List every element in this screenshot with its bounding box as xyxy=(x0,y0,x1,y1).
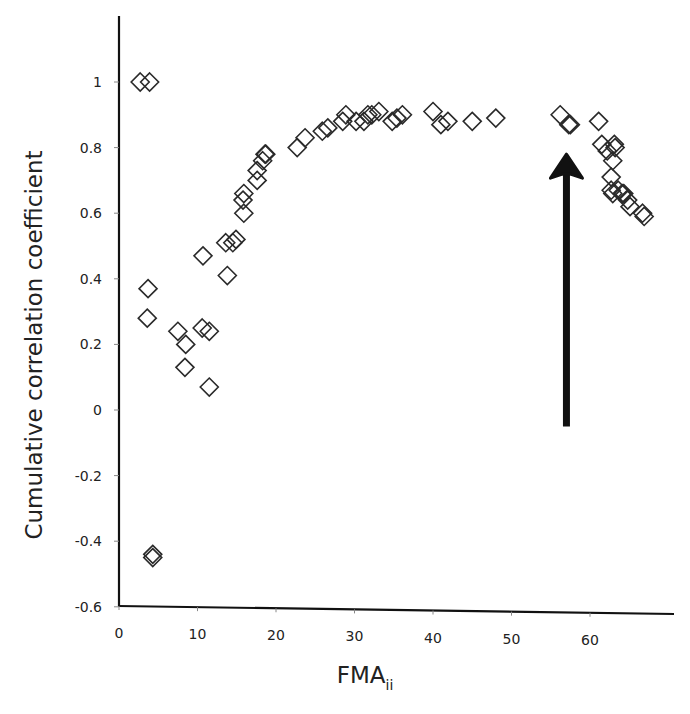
data-point-diamond xyxy=(139,280,157,298)
x-tick-label: 40 xyxy=(424,630,442,646)
x-axis-title-main: FMA xyxy=(337,662,386,688)
x-tick-label: 50 xyxy=(503,631,521,647)
y-tick-labels: -0.6-0.4-0.200.20.40.60.81 xyxy=(75,74,119,615)
y-tick-label: 0.6 xyxy=(80,205,102,221)
x-tick-label: 60 xyxy=(581,632,599,648)
y-tick-label: 0.4 xyxy=(80,271,102,287)
y-tick-label: -0.2 xyxy=(75,468,102,484)
data-point-diamond xyxy=(235,185,253,203)
data-point-diamond xyxy=(235,204,253,222)
x-axis-line xyxy=(118,606,674,614)
data-point-diamond xyxy=(217,234,235,252)
y-axis-title: Cumulative correlation coefficient xyxy=(21,150,47,539)
data-point-diamond xyxy=(590,112,608,130)
y-tick-label: -0.6 xyxy=(75,599,102,615)
x-axis-title: FMAii xyxy=(337,662,394,693)
y-tick-label: 0.2 xyxy=(80,336,102,352)
data-point-diamond xyxy=(234,191,252,209)
y-tick-label: 0 xyxy=(93,402,102,418)
x-axis-title-subscript: ii xyxy=(386,677,394,693)
data-point-diamond xyxy=(176,358,194,376)
data-point-diamond xyxy=(218,267,236,285)
data-point-diamond xyxy=(463,112,481,130)
data-points xyxy=(131,73,653,567)
data-point-diamond xyxy=(487,109,505,127)
y-tick-label: 0.8 xyxy=(80,140,102,156)
data-point-diamond xyxy=(288,139,306,157)
scatter-chart: -0.6-0.4-0.200.20.40.60.81 0102030405060… xyxy=(0,0,690,714)
axes xyxy=(118,16,674,614)
data-point-diamond xyxy=(194,247,212,265)
data-point-diamond xyxy=(551,106,569,124)
y-tick-label: 1 xyxy=(93,74,102,90)
annotations xyxy=(550,154,582,426)
data-point-diamond xyxy=(602,168,620,186)
arrow-up-icon xyxy=(550,154,582,178)
data-point-diamond xyxy=(200,378,218,396)
y-tick-label: -0.4 xyxy=(75,533,102,549)
x-tick-label: 20 xyxy=(267,627,285,643)
data-point-diamond xyxy=(138,309,156,327)
data-point-diamond xyxy=(224,234,242,252)
x-tick-label: 10 xyxy=(189,626,207,642)
data-point-diamond xyxy=(227,230,245,248)
x-tick-label: 30 xyxy=(346,628,364,644)
data-point-diamond xyxy=(296,129,314,147)
x-tick-label: 0 xyxy=(115,625,124,641)
